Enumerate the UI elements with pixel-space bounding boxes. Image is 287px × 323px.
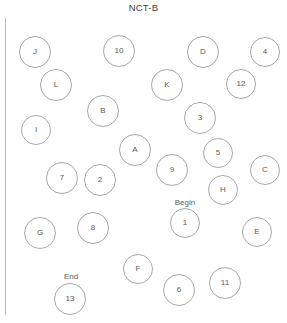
node-2[interactable]: 2	[84, 164, 116, 196]
node-i[interactable]: I	[21, 115, 51, 145]
node-label: A	[132, 146, 137, 154]
node-9[interactable]: 9	[156, 154, 188, 186]
node-c[interactable]: C	[250, 155, 280, 185]
node-label: 1	[183, 219, 187, 227]
node-b[interactable]: B	[87, 95, 119, 127]
node-j[interactable]: J	[19, 36, 51, 68]
node-label: B	[100, 107, 105, 115]
node-label: 12	[237, 80, 246, 88]
node-label: 2	[98, 176, 102, 184]
node-label: 6	[177, 286, 181, 294]
node-13[interactable]: 13	[54, 283, 86, 315]
node-5[interactable]: 5	[203, 138, 233, 168]
node-l[interactable]: L	[40, 69, 72, 101]
node-1[interactable]: 1	[170, 208, 200, 238]
node-g[interactable]: G	[24, 217, 56, 249]
node-4[interactable]: 4	[250, 37, 280, 67]
node-3[interactable]: 3	[184, 102, 216, 134]
node-11[interactable]: 11	[209, 267, 241, 299]
node-label: J	[33, 48, 37, 56]
node-e[interactable]: E	[242, 217, 272, 247]
node-7[interactable]: 7	[46, 162, 78, 194]
page-title: NCT-B	[0, 2, 287, 13]
node-label: 5	[216, 149, 220, 157]
end-marker: End	[41, 272, 101, 281]
node-12[interactable]: 12	[226, 69, 256, 99]
node-d[interactable]: D	[187, 36, 219, 68]
node-label: 4	[263, 48, 267, 56]
node-6[interactable]: 6	[163, 274, 195, 306]
node-label: I	[35, 126, 37, 134]
left-border-rule	[5, 18, 6, 315]
node-10[interactable]: 10	[103, 35, 135, 67]
node-label: K	[164, 81, 169, 89]
node-label: L	[54, 81, 58, 89]
node-k[interactable]: K	[151, 69, 183, 101]
node-label: 9	[170, 166, 174, 174]
node-8[interactable]: 8	[77, 212, 109, 244]
node-f[interactable]: F	[123, 254, 153, 284]
node-label: 7	[60, 174, 64, 182]
node-label: 11	[221, 279, 229, 287]
node-label: C	[262, 166, 268, 174]
node-label: 3	[198, 114, 202, 122]
node-label: 10	[115, 47, 124, 55]
nct-b-canvas: NCT-B J10D4LK12B3IA5C972H1G8EF13611 Begi…	[0, 0, 287, 323]
begin-marker: Begin	[155, 198, 215, 207]
node-label: E	[254, 228, 259, 236]
node-a[interactable]: A	[119, 134, 151, 166]
node-label: D	[200, 48, 206, 56]
node-label: G	[37, 229, 43, 237]
node-label: 13	[66, 295, 75, 303]
node-label: F	[136, 265, 141, 273]
node-label: H	[220, 186, 226, 194]
node-label: 8	[91, 224, 95, 232]
